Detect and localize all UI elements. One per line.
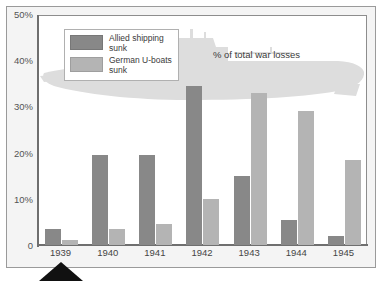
- plot-area: Allied shipping sunkGerman U-boats sunk …: [37, 15, 367, 246]
- y-tick-label: 0: [7, 240, 33, 251]
- bar: [328, 236, 344, 245]
- x-axis-labels: 1939194019411942194319441945: [37, 247, 367, 263]
- chart-figure: 010%20%30%40%50%: [6, 6, 376, 268]
- x-tick-label: 1945: [320, 247, 367, 258]
- legend-swatch: [70, 57, 103, 72]
- y-tick-label: 40%: [7, 55, 33, 66]
- bar: [298, 111, 314, 245]
- bar: [281, 220, 297, 245]
- pointer-triangle-icon: [39, 262, 83, 281]
- x-tick-label: 1944: [273, 247, 320, 258]
- bar: [45, 229, 61, 245]
- y-tick-label: 20%: [7, 148, 33, 159]
- x-tick-label: 1939: [37, 247, 84, 258]
- bar: [109, 229, 125, 245]
- bar: [345, 160, 361, 245]
- legend-item: German U-boats sunk: [70, 56, 173, 75]
- legend-label: Allied shipping sunk: [109, 34, 173, 53]
- legend-swatch: [70, 35, 103, 50]
- bar: [203, 199, 219, 245]
- y-tick-label: 10%: [7, 194, 33, 205]
- bar: [186, 86, 202, 245]
- chart-legend: Allied shipping sunkGerman U-boats sunk: [64, 29, 179, 81]
- legend-label: German U-boats sunk: [109, 56, 173, 75]
- y-tick-label: 30%: [7, 101, 33, 112]
- bar: [139, 155, 155, 245]
- bar-group: [321, 16, 368, 245]
- y-tick-label: 50%: [7, 9, 33, 20]
- x-tick-label: 1942: [178, 247, 225, 258]
- chart-title: % of total war losses: [213, 49, 300, 60]
- bar: [234, 176, 250, 245]
- x-tick-label: 1943: [226, 247, 273, 258]
- x-tick-label: 1941: [131, 247, 178, 258]
- bar: [62, 240, 78, 245]
- bar: [251, 93, 267, 245]
- bar: [156, 224, 172, 245]
- y-axis-labels: 010%20%30%40%50%: [7, 15, 35, 246]
- legend-item: Allied shipping sunk: [70, 34, 173, 53]
- bar: [92, 155, 108, 245]
- x-tick-label: 1940: [84, 247, 131, 258]
